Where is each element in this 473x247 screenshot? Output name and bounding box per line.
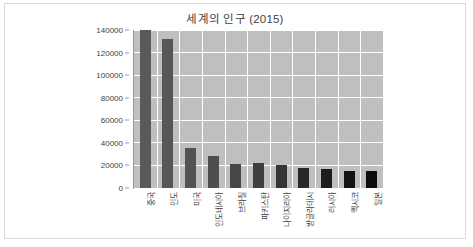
gridline-vertical [315, 30, 316, 188]
bar [140, 30, 151, 188]
y-tick-mark [125, 97, 129, 98]
y-tick-mark [125, 188, 129, 189]
gridline-vertical [202, 30, 203, 188]
chart-frame: 세계의 인구 (2015) 02000040000600008000010000… [4, 3, 466, 239]
bar [185, 148, 196, 188]
gridline-vertical [270, 30, 271, 188]
x-tick-label: 인도네시아 [216, 192, 224, 227]
plot-area [134, 30, 383, 188]
x-tick-label: 러시아 [329, 192, 337, 213]
y-axis-line [133, 30, 134, 189]
gridline-vertical [179, 30, 180, 188]
bar [276, 165, 287, 188]
y-tick-label: 40000 [101, 138, 123, 147]
x-tick-label: 중국 [148, 192, 156, 206]
y-tick-label: 120000 [96, 48, 123, 57]
bar [162, 39, 173, 188]
y-tick-mark [125, 75, 129, 76]
y-tick-label: 0 [119, 184, 123, 193]
y-tick-label: 80000 [101, 93, 123, 102]
gridline-vertical [338, 30, 339, 188]
gridline-vertical [157, 30, 158, 188]
x-tick-label: 미국 [194, 192, 202, 206]
x-tick-label: 일본 [375, 192, 383, 206]
gridline-vertical [360, 30, 361, 188]
y-tick-label: 20000 [101, 161, 123, 170]
bar [230, 164, 241, 188]
bar [253, 163, 264, 188]
gridline-vertical [292, 30, 293, 188]
x-tick-label: 방글라데시 [307, 192, 315, 227]
bar [208, 156, 219, 189]
y-tick-label: 100000 [96, 71, 123, 80]
y-tick-mark [125, 165, 129, 166]
y-tick-mark [125, 30, 129, 31]
x-tick-label: 나이지리아 [284, 192, 292, 227]
x-tick-label: 브라질 [239, 192, 247, 213]
y-tick-mark [125, 52, 129, 53]
bar [298, 168, 309, 188]
gridline-vertical [247, 30, 248, 188]
y-tick-mark [125, 120, 129, 121]
x-tick-label: 파키스탄 [262, 192, 270, 220]
y-tick-mark [125, 142, 129, 143]
bar [321, 169, 332, 188]
y-axis-labels: 020000400006000080000100000120000140000 [81, 30, 129, 188]
gridline-horizontal [134, 30, 383, 31]
y-tick-label: 60000 [101, 116, 123, 125]
x-tick-label: 인도 [171, 192, 179, 206]
y-tick-label: 140000 [96, 26, 123, 35]
x-tick-label: 멕시코 [352, 192, 360, 213]
gridline-vertical [225, 30, 226, 188]
bar [344, 171, 355, 188]
x-axis-labels: 중국인도미국인도네시아브라질파키스탄나이지리아방글라데시러시아멕시코일본 [134, 190, 383, 240]
bar [366, 171, 377, 188]
chart-title: 세계의 인구 (2015) [5, 10, 465, 26]
gridline-vertical [383, 30, 384, 188]
